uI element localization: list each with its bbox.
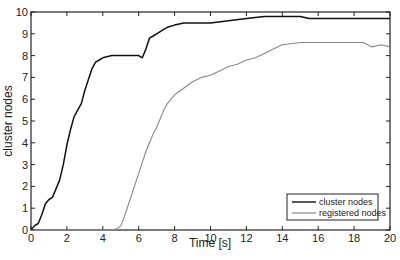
y-tick-label: 2 <box>22 180 28 192</box>
x-tick-label: 8 <box>172 232 178 244</box>
y-tick-label: 8 <box>22 50 28 62</box>
y-tick-label: 6 <box>22 93 28 105</box>
y-tick-label: 3 <box>22 159 28 171</box>
x-axis-label: Time [s] <box>189 236 231 250</box>
legend: cluster nodes registered nodes <box>287 194 387 220</box>
line-chart: 02468101214161820 012345678910 Time [s] … <box>0 0 400 260</box>
y-axis-label: cluster nodes <box>1 85 15 156</box>
y-tick-label: 4 <box>22 137 28 149</box>
x-tick-label: 20 <box>384 232 396 244</box>
legend-label-cluster-nodes: cluster nodes <box>319 197 373 207</box>
x-tick-label: 4 <box>100 232 106 244</box>
y-tick-label: 0 <box>22 224 28 236</box>
y-tick-label: 1 <box>22 202 28 214</box>
x-tick-label: 0 <box>28 232 34 244</box>
x-tick-label: 14 <box>276 232 288 244</box>
y-tick-label: 7 <box>22 71 28 83</box>
x-tick-label: 6 <box>136 232 142 244</box>
y-tick-label: 9 <box>22 28 28 40</box>
x-tick-label: 12 <box>240 232 252 244</box>
legend-label-registered-nodes: registered nodes <box>319 208 387 218</box>
x-tick-label: 18 <box>348 232 360 244</box>
x-tick-label: 2 <box>64 232 70 244</box>
y-tick-label: 5 <box>22 115 28 127</box>
y-tick-label: 10 <box>16 6 28 18</box>
x-tick-label: 16 <box>312 232 324 244</box>
